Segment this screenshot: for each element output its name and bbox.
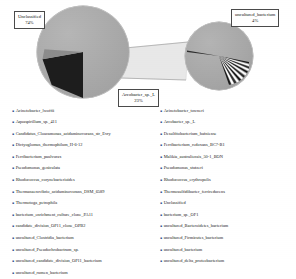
chart-legend: ▪Acinetobacter_lwoffii▪Aquaspirillum_sp.… xyxy=(0,108,296,259)
legend-item: ▪Thermotoga_petrophila xyxy=(12,201,148,213)
legend-item-label: candidate_division_OP11_clone_OPB2 xyxy=(16,224,86,228)
legend-bullet-icon: ▪ xyxy=(12,189,14,195)
callout-uncultured-label: uncultured_bacterium xyxy=(235,12,275,17)
legend-item: ▪Aquaspirillum_sp._411 xyxy=(12,120,148,132)
legend-item-label: bacterium_enrichment_culture_clone_PA11 xyxy=(16,213,93,217)
legend-bullet-icon: ▪ xyxy=(160,142,162,148)
legend-bullet-icon: ▪ xyxy=(160,200,162,206)
legend-item-label: Unclassified xyxy=(164,201,186,205)
legend-item: ▪Unclassified xyxy=(160,201,296,213)
legend-bullet-icon: ▪ xyxy=(160,223,162,229)
legend-bullet-icon: ▪ xyxy=(160,189,162,195)
legend-item-label: Thermotoga_petrophila xyxy=(16,201,57,205)
legend-item-label: Ferribacterium_paulvorax xyxy=(16,155,62,159)
legend-bullet-icon: ▪ xyxy=(12,200,14,206)
legend-item: ▪Thermosulfidibacter_ferrireducens xyxy=(160,189,296,201)
legend-item: ▪uncultured_Pseudochrobactrum_sp. xyxy=(12,247,148,259)
legend-item: ▪Rhodococcus_corynebacterioides xyxy=(12,178,148,190)
legend-item-label: Desulfitobacterium_hafniense xyxy=(164,132,217,136)
legend-item: ▪uncultured_delta_proteobacterium xyxy=(160,259,296,271)
legend-bullet-icon: ▪ xyxy=(160,131,162,137)
legend-item-label: uncultured_Bacteroidetes_bacterium xyxy=(164,224,229,228)
legend-bullet-icon: ▪ xyxy=(12,177,14,183)
legend-item-label: uncultured_Clostridia_bacterium xyxy=(16,236,74,240)
legend-item: ▪Ferribacterium_redoxans_BC7-B1 xyxy=(160,143,296,155)
legend-item-label: Rhodococcus_erythropolis xyxy=(164,178,211,182)
legend-bullet-icon: ▪ xyxy=(12,154,14,160)
legend-item: ▪Pseudomonas_geniculata xyxy=(12,166,148,178)
legend-column-left: ▪Acinetobacter_lwoffii▪Aquaspirillum_sp.… xyxy=(0,108,148,259)
legend-bullet-icon: ▪ xyxy=(160,119,162,125)
legend-bullet-icon: ▪ xyxy=(12,212,14,218)
callout-arcobacter-percent: 23% xyxy=(122,98,155,104)
legend-item: ▪uncultured_rumen_bacterium xyxy=(12,270,148,279)
callout-unclassified-label: Unclassified xyxy=(18,14,41,19)
legend-column-right: ▪Acinetobacter_towneri▪Arcobacter_sp._L▪… xyxy=(148,108,296,259)
legend-bullet-icon: ▪ xyxy=(160,247,162,253)
legend-bullet-icon: ▪ xyxy=(12,165,14,171)
legend-item-label: Arcobacter_sp._L xyxy=(164,120,196,124)
callout-unclassified: Unclassified 74% xyxy=(14,11,45,29)
legend-item: ▪Acinetobacter_towneri xyxy=(160,108,296,120)
legend-bullet-icon: ▪ xyxy=(12,223,14,229)
legend-item-label: Ferribacterium_redoxans_BC7-B1 xyxy=(164,143,225,147)
legend-bullet-icon: ▪ xyxy=(160,108,162,114)
legend-item: ▪Arcobacter_sp._L xyxy=(160,120,296,132)
legend-item: ▪uncultured_Bacteroidetes_bacterium xyxy=(160,224,296,236)
legend-item-label: Pseudomonas_geniculata xyxy=(16,166,60,170)
legend-item: ▪Rhodococcus_erythropolis xyxy=(160,178,296,190)
legend-item-label: Acinetobacter_towneri xyxy=(164,109,204,113)
legend-bullet-icon: ▪ xyxy=(12,258,14,264)
legend-item-label: Malikia_australiensis_50-1_BON xyxy=(164,155,223,159)
legend-item: ▪bacterium_enrichment_culture_clone_PA11 xyxy=(12,212,148,224)
legend-bullet-icon: ▪ xyxy=(12,142,14,148)
legend-item-label: bacterium_sp._OF1 xyxy=(164,213,199,217)
legend-item-label: Pseudomonas_stutzeri xyxy=(164,166,203,170)
legend-item: ▪Candidatus_Cloacamonas_acidaminovorans_… xyxy=(12,131,148,143)
callout-arcobacter-label: Arcobacter_sp._L xyxy=(122,92,155,97)
legend-item-label: Candidatus_Cloacamonas_acidaminovorans_s… xyxy=(16,132,111,136)
legend-item: ▪candidate_division_OP11_clone_OPB2 xyxy=(12,224,148,236)
legend-item: ▪Pseudomonas_stutzeri xyxy=(160,166,296,178)
legend-bullet-icon: ▪ xyxy=(160,258,162,264)
legend-item: ▪uncultured_Clostridia_bacterium xyxy=(12,236,148,248)
legend-item-label: uncultured_bacterium xyxy=(164,248,203,252)
legend-item: ▪Thermanaerovibrio_acidaminovorans_DSM_6… xyxy=(12,189,148,201)
legend-bullet-icon: ▪ xyxy=(12,108,14,114)
legend-item: ▪uncultured_Firmicutes_bacterium xyxy=(160,236,296,248)
legend-bullet-icon: ▪ xyxy=(160,212,162,218)
legend-item-label: uncultured_candidate_division_OP11_bacte… xyxy=(16,259,102,263)
legend-item: ▪bacterium_sp._OF1 xyxy=(160,212,296,224)
legend-item-label: uncultured_rumen_bacterium xyxy=(16,271,68,275)
callout-unclassified-percent: 74% xyxy=(18,20,41,26)
legend-bullet-icon: ▪ xyxy=(12,270,14,276)
legend-item-label: uncultured_Firmicutes_bacterium xyxy=(164,236,224,240)
legend-item: ▪uncultured_bacterium xyxy=(160,247,296,259)
legend-bullet-icon: ▪ xyxy=(12,119,14,125)
callout-arcobacter: Arcobacter_sp._L 23% xyxy=(118,89,159,107)
legend-item: ▪Desulfitobacterium_hafniense xyxy=(160,131,296,143)
legend-bullet-icon: ▪ xyxy=(12,131,14,137)
legend-item-label: Thermanaerovibrio_acidaminovorans_DSM_65… xyxy=(16,190,105,194)
legend-bullet-icon: ▪ xyxy=(12,235,14,241)
legend-bullet-icon: ▪ xyxy=(160,154,162,160)
legend-item-label: Aquaspirillum_sp._411 xyxy=(16,120,57,124)
legend-bullet-icon: ▪ xyxy=(12,247,14,253)
legend-item-label: uncultured_delta_proteobacterium xyxy=(164,259,224,263)
legend-item: ▪uncultured_candidate_division_OP11_bact… xyxy=(12,259,148,271)
legend-bullet-icon: ▪ xyxy=(160,235,162,241)
secondary-pie-small-slices xyxy=(185,22,253,90)
legend-item-label: Rhodococcus_corynebacterioides xyxy=(16,178,75,182)
legend-item: ▪Ferribacterium_paulvorax xyxy=(12,154,148,166)
callout-uncultured-bacterium: uncultured_bacterium 4% xyxy=(231,9,279,27)
legend-item-label: Acinetobacter_lwoffii xyxy=(16,109,55,113)
legend-item: ▪Malikia_australiensis_50-1_BON xyxy=(160,154,296,166)
callout-uncultured-percent: 4% xyxy=(235,18,275,24)
pie-of-pie-chart: Unclassified 74% Arcobacter_sp._L 23% un… xyxy=(0,0,296,110)
legend-item-label: Thermosulfidibacter_ferrireducens xyxy=(164,190,225,194)
legend-bullet-icon: ▪ xyxy=(160,177,162,183)
legend-item: ▪Acinetobacter_lwoffii xyxy=(12,108,148,120)
secondary-pie xyxy=(185,22,253,90)
legend-item: ▪Dictyoglomus_thermophilum_H-6-12 xyxy=(12,143,148,155)
legend-item-label: uncultured_Pseudochrobactrum_sp. xyxy=(16,248,79,252)
